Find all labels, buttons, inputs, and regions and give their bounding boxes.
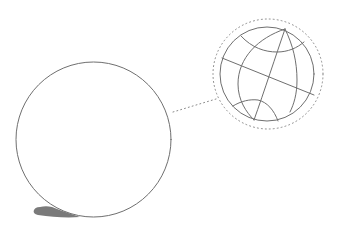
callout-magnifier-ring: [213, 19, 323, 129]
callout-connector-line: [173, 99, 216, 112]
plain-ball: [16, 62, 171, 217]
illustration-svg: [0, 0, 337, 232]
globe-arc-top: [241, 36, 304, 52]
globe-outline: [220, 27, 314, 121]
globe-icon: [220, 27, 314, 121]
globe-equator: [222, 58, 314, 95]
illustration-canvas: Line drawing of a plain ball with a dott…: [0, 0, 337, 232]
globe-meridian-right: [285, 29, 297, 112]
globe-meridian-left: [238, 29, 285, 120]
globe-arc-bottom: [233, 100, 278, 121]
